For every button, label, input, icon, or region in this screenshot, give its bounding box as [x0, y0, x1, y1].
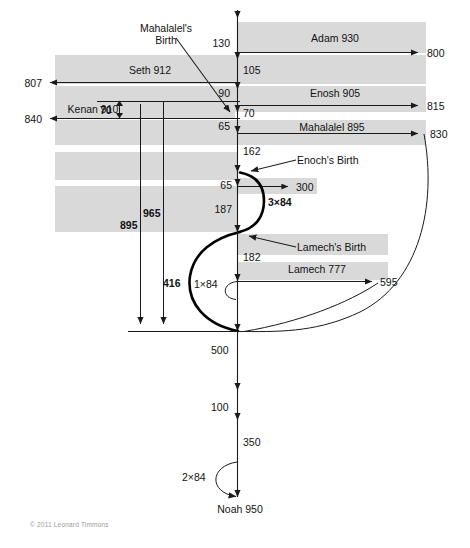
lifespan-bands — [55, 22, 426, 280]
lifespan-label-kenan: Kenan 910 — [48, 103, 138, 115]
diagram-canvas — [0, 0, 470, 548]
segment-label-350: 350 — [243, 436, 261, 448]
segment-label-105: 105 — [243, 64, 261, 76]
endpoint-300: 300 — [296, 181, 314, 193]
segment-label-65b: 65 — [202, 179, 232, 191]
lifespan-label-seth: Seth 912 — [95, 64, 205, 76]
inner-loops — [216, 282, 237, 497]
band-jared — [55, 152, 237, 180]
endpoint-807: 807 — [10, 77, 42, 89]
segment-label-65a: 65 — [200, 120, 230, 132]
multiple-label-3x84: 3×84 — [268, 196, 292, 208]
bracket-label-70: 70 — [100, 104, 112, 116]
callout-mahalalel-birth: Mahalalel's Birth — [116, 22, 216, 46]
lifespan-label-enosh: Enosh 905 — [280, 87, 390, 99]
segment-label-500: 500 — [211, 344, 229, 356]
lifespan-label-adam: Adam 930 — [280, 32, 390, 44]
multiple-label-2x84: 2×84 — [182, 471, 206, 483]
copyright-notice: © 2011 Leonard Timmons — [30, 521, 109, 528]
bracket-label-965: 965 — [143, 207, 161, 219]
endpoint-595: 595 — [380, 276, 398, 288]
segment-label-182: 182 — [243, 251, 261, 263]
loop-1x84 — [225, 282, 237, 300]
callout-lamech-birth: Lamech's Birth — [297, 241, 366, 253]
endpoint-840: 840 — [10, 113, 42, 125]
genealogy-diagram: 130 105 90 70 65 162 65 187 182 500 100 … — [0, 0, 470, 548]
lifespan-label-mahalalel: Mahalalel 895 — [272, 121, 392, 133]
curve-595-to-baseline — [244, 283, 378, 332]
segment-label-70: 70 — [243, 107, 255, 119]
bracket-label-895: 895 — [120, 219, 138, 231]
endpoint-800: 800 — [427, 47, 445, 59]
segment-label-100: 100 — [211, 401, 229, 413]
loop-2x84 — [216, 462, 237, 497]
callout-enoch-birth: Enoch's Birth — [297, 154, 359, 166]
leader-enoch — [251, 160, 296, 171]
segment-label-187: 187 — [198, 203, 232, 215]
segment-label-90: 90 — [200, 87, 230, 99]
segment-label-162: 162 — [243, 145, 261, 157]
endpoint-830: 830 — [430, 128, 448, 140]
multiple-label-1x84: 1×84 — [194, 278, 218, 290]
lifespan-label-noah: Noah 950 — [202, 503, 278, 515]
lifespan-label-lamech: Lamech 777 — [262, 263, 372, 275]
bracket-label-416: 416 — [163, 277, 181, 289]
endpoint-815: 815 — [427, 100, 445, 112]
